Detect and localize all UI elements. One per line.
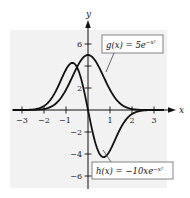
y-tick-label: −6: [70, 172, 82, 181]
y-tick-label: −4: [70, 150, 82, 159]
h-label-exponent: −x²: [153, 166, 163, 172]
x-axis-label: x: [179, 105, 184, 115]
g-label-main: g(x) = 5e: [106, 40, 146, 50]
x-axis-arrow-icon: [168, 107, 176, 113]
h-label-main: h(x) = −10xe: [96, 166, 153, 176]
x-tick-label: −3: [16, 116, 28, 125]
x-tick-label: 1: [107, 116, 112, 125]
x-tick-label: 3: [151, 116, 156, 125]
g-label-exponent: −x²: [146, 39, 156, 45]
y-tick-label: −2: [70, 128, 82, 137]
y-axis-label: y: [85, 9, 92, 19]
x-tick-label: −2: [38, 116, 50, 125]
x-tick-label: −1: [59, 116, 71, 125]
y-axis-arrow-icon: [85, 20, 91, 28]
y-tick-label: 2: [77, 84, 82, 93]
y-tick-label: 6: [77, 40, 82, 49]
x-tick-label: 2: [129, 116, 134, 125]
chart: x −3 −2 −1 1 2 3 y 6 2 −2 −4 −6: [0, 0, 190, 198]
h-label: h(x) = −10xe−x²: [96, 166, 163, 177]
